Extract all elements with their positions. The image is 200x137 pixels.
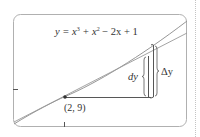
differential-diagram: y = x3 + x2 − 2x + 1 dy Δy (2, 9) xyxy=(0,0,200,137)
tangent-point xyxy=(63,95,67,99)
tangent-line xyxy=(14,33,187,122)
delta-y-brace xyxy=(155,46,159,96)
point-label: (2, 9) xyxy=(64,102,86,114)
delta-y-bar-cap xyxy=(151,45,154,46)
dy-brace xyxy=(142,57,146,96)
equation-label: y = x3 + x2 − 2x + 1 xyxy=(54,26,138,37)
delta-y-label: Δy xyxy=(161,66,174,77)
dy-label: dy xyxy=(128,71,138,82)
